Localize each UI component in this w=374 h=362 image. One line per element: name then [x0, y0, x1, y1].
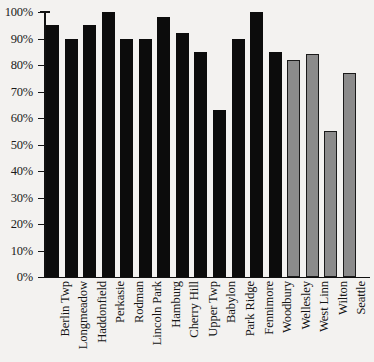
x-axis-label: Babylon — [213, 281, 226, 359]
x-axis-label: Fennimore — [250, 281, 263, 359]
bar — [343, 73, 356, 277]
y-axis-tick — [38, 118, 45, 119]
x-axis-labels: Berlin TwpLongmeadowHaddonfieldPerkasieR… — [46, 281, 372, 361]
x-axis-label: Berlin Twp — [46, 281, 59, 359]
y-axis-tick-label: 60% — [11, 111, 33, 126]
bar — [139, 39, 152, 278]
x-axis-label: Hamburg — [157, 281, 170, 359]
y-axis-tick-label: 50% — [11, 137, 33, 152]
x-axis-label: Haddonfield — [83, 281, 96, 359]
y-axis-tick — [38, 145, 45, 146]
bar — [83, 25, 96, 277]
plot-area: 100%90%80%70%60%50%40%30%20%10%0% — [44, 12, 370, 277]
x-axis-label: Park Ridge — [232, 281, 245, 359]
y-axis-tick-label: 100% — [5, 5, 33, 20]
y-axis-tick-label: 80% — [11, 58, 33, 73]
x-axis-label: Lincoln Park — [139, 281, 152, 359]
bar — [324, 131, 337, 277]
x-axis-label: Longmeadow — [65, 281, 78, 359]
y-axis-tick-label: 90% — [11, 31, 33, 46]
y-axis-tick — [38, 65, 45, 66]
bar-series — [46, 12, 370, 277]
x-axis-label: Cherry Hill — [176, 281, 189, 359]
y-axis-tick — [38, 251, 45, 252]
y-axis-tick-label: 30% — [11, 190, 33, 205]
bar — [250, 12, 263, 277]
bar — [194, 52, 207, 277]
bar — [176, 33, 189, 277]
y-axis-tick-label: 40% — [11, 164, 33, 179]
bar — [102, 12, 115, 277]
y-axis-tick-label: 0% — [17, 270, 33, 285]
x-axis-label-text: Seattle — [354, 281, 369, 315]
bar — [120, 39, 133, 278]
x-axis-label: Rodman — [120, 281, 133, 359]
x-axis-label: Upper Twp — [194, 281, 207, 359]
y-axis-tick — [38, 224, 45, 225]
x-axis-label: West Linn — [306, 281, 319, 359]
y-axis-tick-label: 10% — [11, 243, 33, 258]
y-axis-tick-label: 70% — [11, 84, 33, 99]
y-axis-tick — [38, 39, 45, 40]
x-axis-label: Perkasie — [102, 281, 115, 359]
bar — [213, 110, 226, 277]
x-axis-label: Wilton — [324, 281, 337, 359]
bar — [157, 17, 170, 277]
bar-chart: 100%90%80%70%60%50%40%30%20%10%0% Berlin… — [0, 0, 374, 362]
bar — [306, 54, 319, 277]
y-axis-tick — [38, 12, 45, 13]
y-axis-tick — [38, 198, 45, 199]
x-axis-label: Woodbury — [269, 281, 282, 359]
x-axis-label: Wellesley — [287, 281, 300, 359]
x-axis-baseline — [44, 277, 370, 278]
y-axis-tick-label: 20% — [11, 217, 33, 232]
y-axis-tick — [38, 92, 45, 93]
bar — [287, 60, 300, 277]
bar — [232, 39, 245, 278]
y-axis-tick — [38, 277, 45, 278]
bar — [269, 52, 282, 277]
bar — [46, 25, 59, 277]
bar — [65, 39, 78, 278]
x-axis-label: Seattle — [343, 281, 356, 359]
y-axis-tick — [38, 171, 45, 172]
